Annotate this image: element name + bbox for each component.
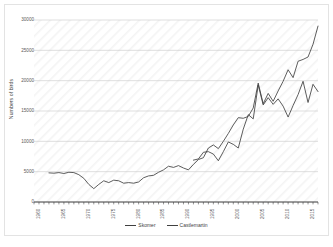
x-tick-label: 1985 xyxy=(160,208,165,218)
chart-legend: SkomerCastlemartin xyxy=(0,222,333,228)
bird-population-line-chart: Numbers of birds 05000100001500020000250… xyxy=(0,0,333,247)
x-tick-label: 1980 xyxy=(136,208,141,218)
legend-entry-castlemartin[interactable]: Castlemartin xyxy=(167,222,208,228)
legend-line-swatch xyxy=(125,225,136,226)
legend-line-swatch xyxy=(167,225,178,226)
x-tick-label: 1995 xyxy=(210,208,215,218)
x-tick-label: 1965 xyxy=(61,208,66,218)
x-tick-label: 2005 xyxy=(260,208,265,218)
legend-label: Castlemartin xyxy=(180,222,208,228)
x-tick-label: 1960 xyxy=(36,208,41,218)
legend-label: Skomer xyxy=(138,222,155,228)
x-tick-label: 2015 xyxy=(310,208,315,218)
x-axis-tick-labels: 1960196519701975198019851990199520002005… xyxy=(0,0,333,247)
x-tick-label: 2010 xyxy=(285,208,290,218)
x-tick-label: 1970 xyxy=(86,208,91,218)
x-tick-label: 2000 xyxy=(235,208,240,218)
x-tick-label: 1975 xyxy=(111,208,116,218)
legend-entry-skomer[interactable]: Skomer xyxy=(125,222,155,228)
x-tick-label: 1990 xyxy=(185,208,190,218)
